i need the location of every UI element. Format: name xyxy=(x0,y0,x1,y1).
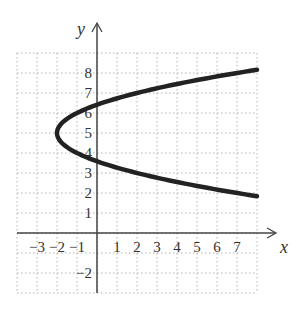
y-tick-label: 3 xyxy=(85,165,93,181)
x-tick-label: 2 xyxy=(133,239,141,255)
x-tick-label: 7 xyxy=(233,239,241,255)
y-axis-label: y xyxy=(75,19,85,39)
x-tick-label: −2 xyxy=(49,239,65,255)
y-tick-label: 7 xyxy=(85,85,93,101)
parabola-chart: −3−2−1123456787654321−2 x y xyxy=(0,0,305,313)
x-tick-label: 1 xyxy=(113,239,121,255)
x-tick-label: −3 xyxy=(29,239,45,255)
y-tick-label: −2 xyxy=(76,265,92,281)
x-tick-label: 5 xyxy=(193,239,201,255)
x-tick-label: 3 xyxy=(153,239,161,255)
y-tick-label: 5 xyxy=(85,125,93,141)
x-tick-label: −1 xyxy=(69,239,85,255)
y-tick-label: 8 xyxy=(85,65,93,81)
x-axis-label: x xyxy=(279,237,288,257)
y-tick-label: 2 xyxy=(85,185,93,201)
x-tick-label: 4 xyxy=(173,239,181,255)
x-tick-label: 6 xyxy=(213,239,221,255)
y-tick-label: 1 xyxy=(85,205,93,221)
